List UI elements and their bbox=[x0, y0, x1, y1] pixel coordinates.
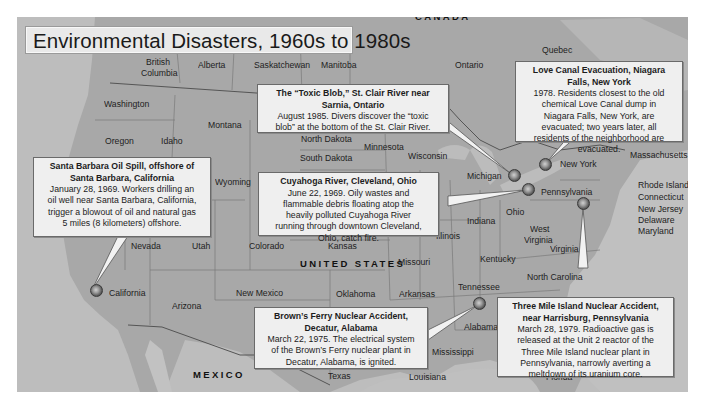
callout-body: 1978. Residents closest to the old chemi… bbox=[527, 87, 671, 155]
callout-title: Love Canal Evacuation, Niagara Falls, Ne… bbox=[527, 64, 671, 87]
map-canvas: BritishColumbiaAlbertaSaskatchewanManito… bbox=[17, 17, 688, 392]
callout-title: The “Toxic Blob,” St. Clair River near S… bbox=[270, 87, 436, 110]
marker-santa-barbara[interactable] bbox=[90, 284, 103, 297]
callout-title: Brown’s Ferry Nuclear Accident, Decatur,… bbox=[266, 310, 415, 333]
callout-browns-ferry: Brown’s Ferry Nuclear Accident, Decatur,… bbox=[254, 307, 428, 369]
callout-body: March 28, 1979. Radioactive gas is relea… bbox=[509, 323, 661, 379]
callout-cuyahoga: Cuyahoga River, Cleveland, Ohio June 22,… bbox=[258, 172, 439, 236]
marker-cuyahoga[interactable] bbox=[522, 183, 535, 196]
marker-browns-ferry[interactable] bbox=[473, 297, 486, 310]
callout-santa-barbara: Santa Barbara Oil Spill, offshore of San… bbox=[33, 157, 211, 237]
callout-toxic-blob: The “Toxic Blob,” St. Clair River near S… bbox=[257, 84, 449, 133]
callout-title: Cuyahoga River, Cleveland, Ohio bbox=[271, 175, 427, 187]
marker-love-canal[interactable] bbox=[539, 158, 552, 171]
callout-body: March 22, 1975. The electrical system of… bbox=[266, 333, 415, 367]
callout-body: January 28, 1969. Workers drilling an oi… bbox=[46, 183, 199, 228]
callout-body: August 1985. Divers discover the “toxic … bbox=[270, 110, 436, 133]
callout-title: Santa Barbara Oil Spill, offshore of San… bbox=[46, 160, 199, 183]
map-title: Environmental Disasters, 1960s to 1980s bbox=[26, 27, 352, 53]
callout-title: Three Mile Island Nuclear Accident, near… bbox=[509, 300, 661, 323]
callout-love-canal: Love Canal Evacuation, Niagara Falls, Ne… bbox=[515, 61, 683, 142]
marker-three-mile-island[interactable] bbox=[577, 197, 590, 210]
callout-three-mile-island: Three Mile Island Nuclear Accident, near… bbox=[497, 297, 674, 377]
marker-toxic-blob[interactable] bbox=[508, 169, 521, 182]
callout-body: June 22, 1969. Oily wastes and flammable… bbox=[271, 187, 427, 243]
